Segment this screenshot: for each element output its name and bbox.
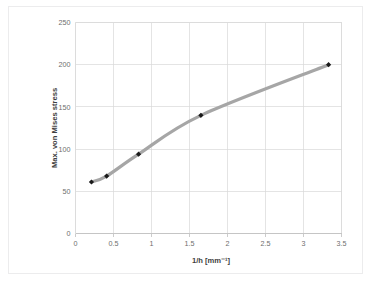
y-tick-label-5: 250	[59, 18, 71, 27]
plot-border-group	[76, 23, 342, 234]
x-axis-title: 1/h [mm⁻¹]	[192, 256, 231, 265]
tick-marks-group	[76, 234, 342, 237]
x-tick-label-7: 3.5	[337, 239, 347, 248]
y-tick-label-3: 150	[59, 103, 71, 112]
y-tick-label-0: 0	[67, 229, 71, 238]
y-axis-title: Max. von Mises stress	[50, 88, 59, 168]
line-chart-svg: 00.511.522.533.5 050100150200250 1/h [mm…	[0, 0, 379, 292]
x-tick-label-2: 1	[150, 239, 154, 248]
series-line-max-von-mises-stress	[91, 65, 328, 182]
x-tick-label-5: 2.5	[261, 239, 271, 248]
x-tick-label-4: 2	[226, 239, 230, 248]
gridlines-group	[76, 23, 342, 234]
data-markers-group	[89, 62, 331, 185]
x-tick-label-1: 0.5	[109, 239, 119, 248]
x-tick-label-3: 1.5	[185, 239, 195, 248]
y-tick-labels-group: 050100150200250	[59, 18, 71, 238]
x-tick-label-0: 0	[74, 239, 78, 248]
y-tick-label-4: 200	[59, 60, 71, 69]
plot-border	[76, 23, 342, 234]
chart-plot-container: 00.511.522.533.5 050100150200250 1/h [mm…	[0, 0, 379, 292]
y-tick-label-1: 50	[63, 187, 71, 196]
data-series-group	[91, 65, 328, 182]
y-tick-label-2: 100	[59, 145, 71, 154]
x-tick-labels-group: 00.511.522.533.5	[74, 239, 347, 248]
x-tick-label-6: 3	[302, 239, 306, 248]
chart-figure: 00.511.522.533.5 050100150200250 1/h [mm…	[0, 0, 379, 292]
